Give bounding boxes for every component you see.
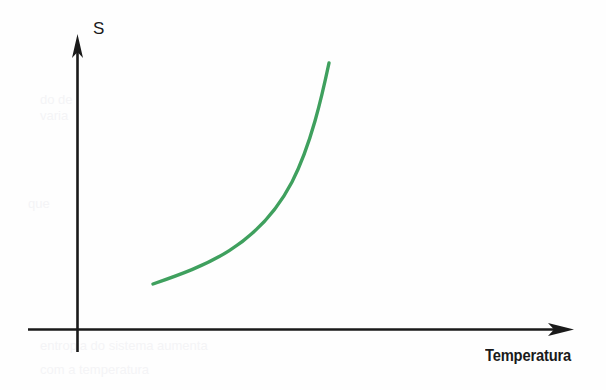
entropy-curve [153, 63, 329, 284]
entropy-temperature-figure: do de varia que entropia do sistema aume… [0, 0, 606, 390]
x-axis-label: Temperatura [485, 348, 571, 364]
y-axis-label: S [93, 20, 105, 37]
plot-area [0, 0, 606, 390]
